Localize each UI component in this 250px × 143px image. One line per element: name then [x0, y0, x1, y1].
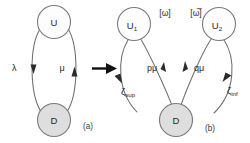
panel-b: U1 U2 D [ω] [ω̅] pμ qμ	[115, 8, 239, 137]
edge-d-to-u	[66, 28, 78, 113]
node-u-label: U	[51, 17, 58, 28]
node-u: U	[38, 6, 71, 39]
panel-b-caption: (b)	[205, 124, 215, 133]
edge-u1-to-d	[115, 40, 138, 112]
zeta-sup-subscript: sup	[125, 91, 136, 98]
figure-root: U D λ μ (a)	[0, 0, 250, 143]
edge-d-to-u1-arrowhead	[161, 62, 167, 72]
node-d: D	[38, 104, 71, 137]
edge-d-to-u1	[140, 38, 173, 108]
panel-a: U D λ μ (a)	[12, 6, 93, 137]
bracket-label-omega-bar: [ω̅]	[190, 8, 202, 18]
edge-d-to-u2	[180, 38, 212, 108]
edge-u-to-d	[31, 29, 43, 114]
diagram-canvas: U D λ μ (a)	[0, 0, 250, 143]
transform-arrow-tip	[106, 63, 117, 74]
rate-label-lambda: λ	[12, 63, 17, 73]
rate-label-mu: μ	[59, 63, 64, 73]
edge-d-to-u2-path	[180, 38, 212, 108]
edge-u2-to-d-arrowhead	[223, 73, 232, 83]
zeta-inf-subscript: inf	[231, 90, 238, 97]
panel-a-caption: (a)	[83, 122, 93, 131]
rate-label-zeta-sup: ζsup	[121, 86, 136, 98]
edge-d-to-u1-path	[140, 38, 173, 108]
bracket-label-omega: [ω]	[159, 8, 171, 18]
node-u2-subscript: 2	[219, 24, 223, 31]
transform-arrow-icon	[92, 63, 117, 74]
node-u1: U1	[118, 8, 151, 41]
edge-u2-to-d	[214, 40, 232, 113]
node-u2: U2	[203, 8, 236, 41]
node-d-b: D	[160, 104, 193, 137]
edge-d-to-u2-arrowhead	[183, 61, 189, 72]
node-d-label: D	[51, 115, 58, 126]
edge-u1-to-d-path	[121, 40, 137, 112]
node-u1-subscript: 1	[134, 24, 138, 31]
rate-label-pmu: pμ	[147, 63, 157, 73]
edge-u-to-d-arrowhead	[31, 65, 37, 75]
rate-label-qmu: qμ	[194, 63, 204, 73]
node-d-b-label: D	[173, 115, 180, 126]
rate-label-zeta-inf: ζinf	[227, 85, 238, 97]
edge-d-to-u-arrowhead	[72, 67, 78, 77]
